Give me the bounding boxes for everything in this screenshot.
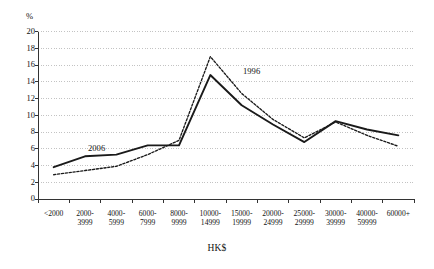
x-tick-label-line: 60000+ bbox=[376, 209, 420, 218]
x-axis-unit-label: HK$ bbox=[0, 243, 434, 253]
x-axis-tick-labels: <20002000-39994000-59996000-79998000-999… bbox=[0, 0, 434, 269]
series-label-2006: 2006 bbox=[88, 143, 105, 153]
series-label-1996: 1996 bbox=[243, 66, 260, 76]
x-tick-label-line: 59999 bbox=[345, 218, 389, 227]
line-chart: % 02468101214161820 <20002000-39994000-5… bbox=[0, 0, 434, 269]
x-tick-label: 60000+ bbox=[376, 209, 420, 218]
